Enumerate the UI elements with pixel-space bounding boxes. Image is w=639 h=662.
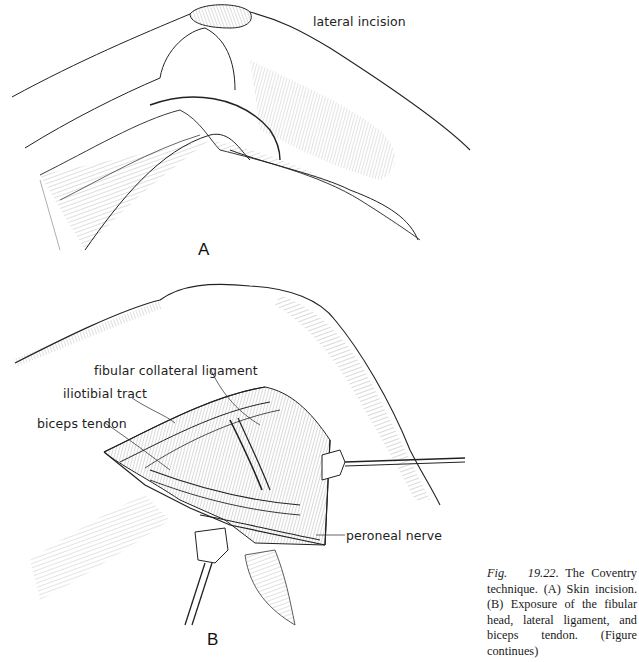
panel-a-drawing bbox=[12, 5, 470, 250]
label-peroneal-nerve: peroneal nerve bbox=[346, 528, 442, 543]
panel-b-drawing bbox=[15, 284, 465, 625]
caption-fig-number: 19.22 bbox=[528, 566, 556, 580]
panel-letter-b: B bbox=[207, 630, 218, 650]
panel-letter-a: A bbox=[198, 240, 209, 260]
caption-text: . The Coventry technique. (A) Skin incis… bbox=[487, 566, 637, 658]
label-iliotibial-tract: iliotibial tract bbox=[63, 386, 147, 401]
label-fibular-collateral-ligament: fibular collateral ligament bbox=[94, 363, 258, 378]
figure-caption: Fig. 19.22. The Coventry technique. (A) … bbox=[487, 566, 637, 659]
label-lateral-incision: lateral incision bbox=[313, 14, 406, 29]
panel-a-knee-illustration bbox=[0, 0, 639, 662]
figure-19-22: lateral incision A fibular collateral li… bbox=[0, 0, 639, 662]
caption-fig-label: Fig. bbox=[487, 566, 507, 580]
label-biceps-tendon: biceps tendon bbox=[37, 416, 127, 431]
